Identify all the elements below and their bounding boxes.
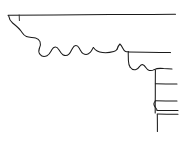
cornice-profile-svg — [0, 0, 185, 145]
drawing-canvas — [0, 0, 185, 145]
